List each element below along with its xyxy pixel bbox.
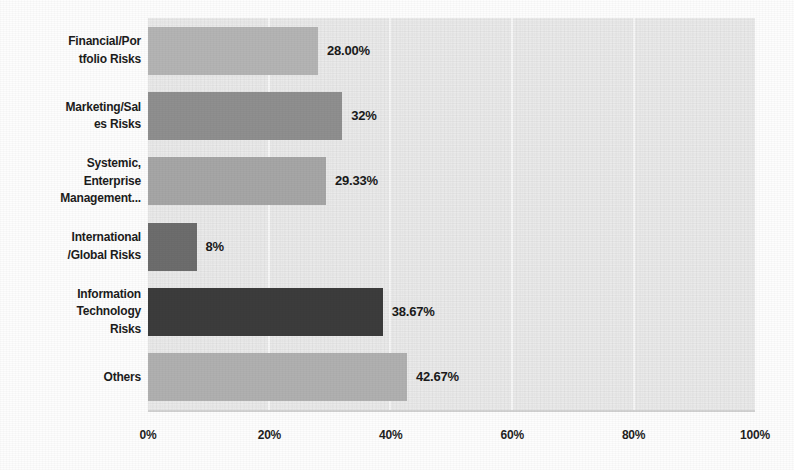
bar-value-label-0: 28.00%	[327, 43, 370, 58]
gridline-20	[268, 18, 270, 410]
category-label-0: Financial/Portfolio Risks	[8, 33, 141, 68]
gridline-40	[389, 18, 391, 410]
bar-5	[148, 353, 407, 401]
category-label-2: Systemic,EnterpriseManagement...	[8, 155, 141, 208]
category-label-line: Others	[8, 369, 141, 387]
bar-3	[148, 223, 197, 271]
x-tick-label-20: 20%	[239, 428, 299, 442]
category-label-line: /Global Risks	[8, 247, 141, 265]
category-label-3: International/Global Risks	[8, 229, 141, 264]
x-tick-label-80: 80%	[604, 428, 664, 442]
category-label-line: Management...	[8, 190, 141, 208]
bar-4	[148, 288, 383, 336]
category-label-line: International	[8, 229, 141, 247]
bar-2	[148, 157, 326, 205]
category-label-line: Risks	[8, 321, 141, 339]
plot-area	[148, 18, 755, 410]
bar-value-label-2: 29.33%	[335, 173, 378, 188]
x-tick-label-0: 0%	[118, 428, 178, 442]
x-tick-label-60: 60%	[482, 428, 542, 442]
category-label-line: es Risks	[8, 116, 141, 134]
bar-value-label-5: 42.67%	[416, 369, 459, 384]
category-label-line: Technology	[8, 303, 141, 321]
bar-0	[148, 27, 318, 75]
bar-value-label-3: 8%	[206, 239, 224, 254]
bar-1	[148, 92, 342, 140]
category-label-line: Systemic,	[8, 155, 141, 173]
category-label-line: Financial/Por	[8, 33, 141, 51]
x-tick-label-100: 100%	[725, 428, 785, 442]
gridline-80	[633, 18, 635, 410]
category-label-1: Marketing/Sales Risks	[8, 99, 141, 134]
category-label-line: Information	[8, 286, 141, 304]
category-label-line: Enterprise	[8, 173, 141, 191]
x-tick-label-40: 40%	[361, 428, 421, 442]
bar-value-label-1: 32%	[351, 108, 376, 123]
category-label-4: InformationTechnologyRisks	[8, 286, 141, 339]
category-label-5: Others	[8, 369, 141, 387]
bar-chart-figure: 28.00%Financial/Portfolio Risks32%Market…	[0, 0, 794, 470]
x-axis-line	[148, 410, 755, 412]
category-label-line: tfolio Risks	[8, 51, 141, 69]
category-label-line: Marketing/Sal	[8, 99, 141, 117]
bar-value-label-4: 38.67%	[392, 304, 435, 319]
gridline-60	[511, 18, 513, 410]
